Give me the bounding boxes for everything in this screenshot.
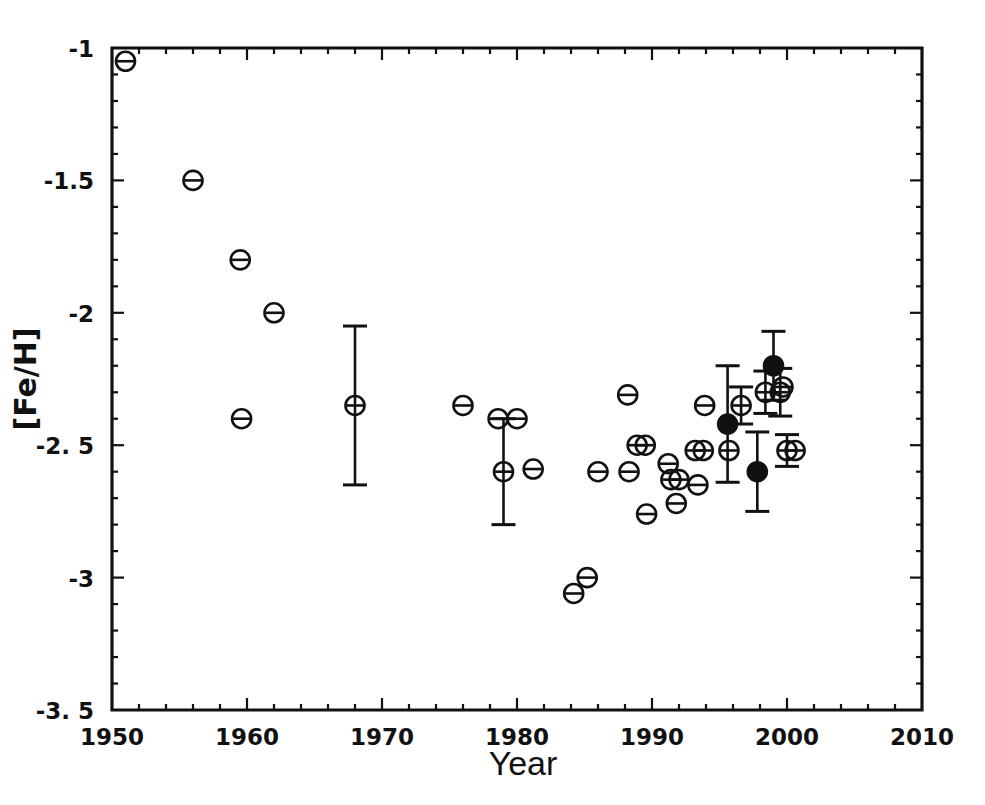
x-tick-label: 1950: [80, 724, 144, 750]
x-tick-label: 1960: [215, 724, 279, 750]
x-tick-label: 1990: [620, 724, 684, 750]
y-tick-label: -2. 5: [36, 433, 94, 459]
chart-figure: 1950196019701980199020002010-1-1.5-2-2. …: [0, 0, 985, 805]
scatter-plot: 1950196019701980199020002010-1-1.5-2-2. …: [0, 0, 985, 805]
y-tick-label: -2: [68, 301, 94, 327]
y-tick-label: -1: [68, 36, 94, 62]
y-tick-label: -3. 5: [36, 698, 94, 724]
plot-frame: [112, 48, 922, 710]
x-tick-label: 2000: [755, 724, 819, 750]
x-axis-title: Year: [489, 744, 558, 782]
y-tick-label: -1.5: [44, 168, 94, 194]
y-tick-label: -3: [68, 566, 94, 592]
y-axis-title: [Fe/H]: [8, 327, 43, 430]
x-tick-label: 2010: [890, 724, 954, 750]
x-tick-label: 1970: [350, 724, 414, 750]
